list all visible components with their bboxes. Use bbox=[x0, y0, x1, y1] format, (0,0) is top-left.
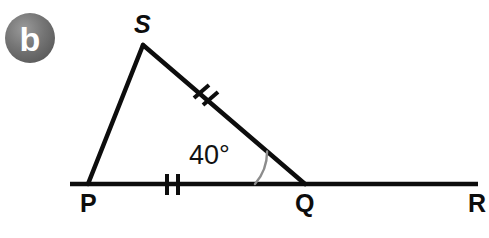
geometry-figure: b 40° S P Q R bbox=[0, 0, 489, 238]
segment-ps bbox=[88, 45, 143, 184]
angle-measure-label: 40° bbox=[189, 140, 230, 170]
vertex-label-q: Q bbox=[295, 189, 314, 217]
part-label-badge: b bbox=[5, 13, 55, 63]
angle-arc-at-q bbox=[255, 151, 267, 184]
vertex-label-r: R bbox=[468, 189, 486, 217]
vertex-label-s: S bbox=[134, 10, 151, 38]
tick-marks-sq bbox=[194, 85, 218, 105]
figure-canvas: b 40° S P Q R bbox=[0, 0, 489, 238]
badge-letter-b: b bbox=[20, 20, 41, 58]
vertex-label-p: P bbox=[80, 189, 97, 217]
